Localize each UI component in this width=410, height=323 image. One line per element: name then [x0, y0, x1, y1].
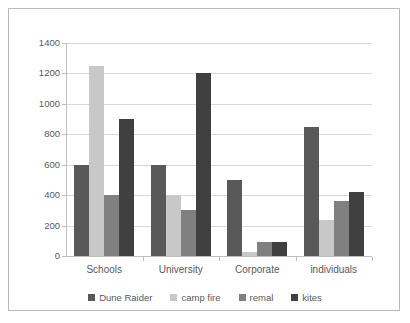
- plot-area: [66, 43, 372, 256]
- y-tick-mark-400: [62, 195, 66, 196]
- bar-group-university: [143, 43, 220, 256]
- bar-corporate-remal[interactable]: [257, 242, 272, 256]
- y-tick-label-800: 800: [16, 129, 60, 139]
- bar-corporate-kites[interactable]: [272, 242, 287, 256]
- legend-label: Dune Raider: [99, 292, 152, 303]
- y-tick-mark-1400: [62, 43, 66, 44]
- y-tick-label-0: 0: [16, 251, 60, 261]
- bar-university-dune-raider[interactable]: [151, 165, 166, 256]
- bar-university-remal[interactable]: [181, 210, 196, 256]
- bar-individuals-kites[interactable]: [349, 192, 364, 256]
- bar-schools-kites[interactable]: [119, 119, 134, 256]
- bar-individuals-remal[interactable]: [334, 201, 349, 256]
- y-tick-label-1200: 1200: [16, 68, 60, 78]
- x-label-schools: Schools: [66, 263, 143, 277]
- chart-frame: 0200400600800100012001400 SchoolsUnivers…: [8, 8, 400, 311]
- y-tick-label-400: 400: [16, 190, 60, 200]
- y-tick-label-1000: 1000: [16, 99, 60, 109]
- legend-swatch-icon: [88, 294, 95, 301]
- bar-schools-remal[interactable]: [104, 195, 119, 256]
- y-tick-mark-1200: [62, 73, 66, 74]
- legend-swatch-icon: [291, 294, 298, 301]
- bar-schools-camp-fire[interactable]: [89, 66, 104, 256]
- legend-label: remal: [250, 292, 274, 303]
- legend-label: camp fire: [181, 292, 220, 303]
- bar-university-camp-fire[interactable]: [166, 195, 181, 256]
- legend-item-remal[interactable]: remal: [239, 292, 274, 303]
- y-tick-mark-200: [62, 226, 66, 227]
- legend-item-dune-raider[interactable]: Dune Raider: [88, 292, 152, 303]
- legend-swatch-icon: [170, 294, 177, 301]
- bar-corporate-camp-fire[interactable]: [242, 252, 257, 256]
- bar-corporate-dune-raider[interactable]: [227, 180, 242, 256]
- x-axis-category-labels: SchoolsUniversityCorporateindividuals: [66, 263, 372, 281]
- legend-label: kites: [302, 292, 322, 303]
- legend-item-kites[interactable]: kites: [291, 292, 322, 303]
- bar-individuals-camp-fire[interactable]: [319, 220, 334, 257]
- y-axis-line: [66, 43, 67, 257]
- y-tick-mark-0: [62, 256, 66, 257]
- x-tick-mark-0: [143, 257, 144, 261]
- bar-group-corporate: [219, 43, 296, 256]
- y-tick-mark-1000: [62, 104, 66, 105]
- bar-schools-dune-raider[interactable]: [74, 165, 89, 256]
- legend-item-camp-fire[interactable]: camp fire: [170, 292, 220, 303]
- y-tick-mark-600: [62, 165, 66, 166]
- x-label-university: University: [143, 263, 220, 277]
- y-tick-label-1400: 1400: [16, 38, 60, 48]
- y-axis-tick-labels: 0200400600800100012001400: [9, 9, 60, 312]
- legend-swatch-icon: [239, 294, 246, 301]
- bar-group-individuals: [296, 43, 373, 256]
- y-tick-label-200: 200: [16, 221, 60, 231]
- x-tick-mark-3: [372, 257, 373, 261]
- y-tick-label-600: 600: [16, 160, 60, 170]
- x-tick-mark-1: [219, 257, 220, 261]
- y-tick-mark-800: [62, 134, 66, 135]
- chart-legend: Dune Raidercamp fireremalkites: [9, 292, 401, 303]
- bar-group-schools: [66, 43, 143, 256]
- bar-individuals-dune-raider[interactable]: [304, 127, 319, 256]
- bar-university-kites[interactable]: [196, 73, 211, 256]
- x-label-corporate: Corporate: [219, 263, 296, 277]
- x-label-individuals: individuals: [296, 263, 373, 277]
- x-tick-mark-2: [296, 257, 297, 261]
